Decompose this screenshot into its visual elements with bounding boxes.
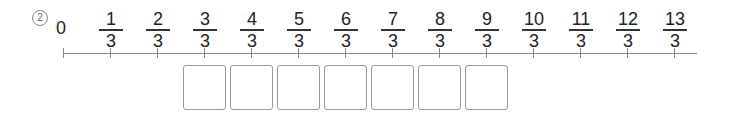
denominator: 3 [96,31,126,50]
numerator: 11 [566,10,596,29]
numerator: 10 [519,10,549,29]
denominator: 3 [472,31,502,50]
answer-box[interactable] [371,65,414,110]
denominator: 3 [425,31,455,50]
answer-box[interactable] [418,65,461,110]
numerator: 12 [613,10,643,29]
numerator: 9 [472,10,502,29]
fraction-label: 113 [566,10,596,50]
fraction-label: 53 [284,10,314,50]
fraction-label: 13 [96,10,126,50]
numerator: 3 [190,10,220,29]
fraction-label: 133 [660,10,690,50]
denominator: 3 [143,31,173,50]
numerator: 5 [284,10,314,29]
denominator: 3 [284,31,314,50]
fraction-label: 73 [378,10,408,50]
denominator: 3 [519,31,549,50]
numerator: 4 [237,10,267,29]
fraction-label: 103 [519,10,549,50]
fraction-label: 83 [425,10,455,50]
numerator: 13 [660,10,690,29]
answer-box[interactable] [465,65,508,110]
numerator: 8 [425,10,455,29]
fraction-label: 93 [472,10,502,50]
numerator: 1 [96,10,126,29]
denominator: 3 [378,31,408,50]
answer-box[interactable] [230,65,273,110]
tick-zero [63,48,64,58]
fraction-label: 123 [613,10,643,50]
numerator: 6 [331,10,361,29]
fraction-label: 63 [331,10,361,50]
denominator: 3 [613,31,643,50]
answer-box[interactable] [324,65,367,110]
denominator: 3 [331,31,361,50]
numerator: 2 [143,10,173,29]
denominator: 3 [660,31,690,50]
number-line [63,53,697,54]
fraction-label: 23 [143,10,173,50]
fraction-label: 33 [190,10,220,50]
denominator: 3 [566,31,596,50]
fraction-label: 43 [237,10,267,50]
question-number: 2 [32,10,48,26]
numerator: 7 [378,10,408,29]
denominator: 3 [237,31,267,50]
answer-box[interactable] [183,65,226,110]
answer-box[interactable] [277,65,320,110]
zero-label: 0 [56,18,66,39]
denominator: 3 [190,31,220,50]
